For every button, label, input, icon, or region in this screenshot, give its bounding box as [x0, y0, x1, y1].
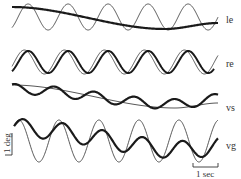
eye-movement-figure: le re vs vg 1 deg 1 sec — [0, 0, 241, 179]
trace-le: le — [12, 4, 234, 30]
trace-re: re — [12, 50, 234, 74]
time-scale-bar: 1 sec — [193, 163, 218, 179]
vg-response-trace — [14, 119, 218, 157]
trace-label-vs: vs — [226, 102, 235, 113]
re-response-trace — [12, 51, 214, 73]
trace-label-re: re — [226, 58, 234, 69]
trace-label-vg: vg — [226, 140, 236, 151]
vs-response-trace — [12, 84, 218, 108]
amplitude-scale-label: 1 deg — [2, 133, 12, 153]
trace-vg: vg — [14, 119, 236, 162]
vg-stimulus-trace — [14, 120, 218, 162]
time-scale-line — [193, 163, 218, 167]
trace-vs: vs — [12, 84, 235, 113]
time-scale-label: 1 sec — [196, 169, 214, 179]
amplitude-scale-bar: 1 deg — [2, 133, 12, 155]
trace-label-le: le — [226, 14, 234, 25]
